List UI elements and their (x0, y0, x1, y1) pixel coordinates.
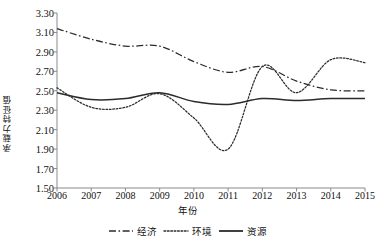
x-axis-tick-label: 2009 (150, 190, 170, 201)
legend-swatch-solid-icon (218, 226, 244, 236)
x-axis-tick-label: 2008 (115, 190, 135, 201)
legend-item-资源[interactable]: 资源 (218, 224, 267, 238)
legend-label: 环境 (192, 224, 212, 238)
y-axis-ticks (54, 13, 58, 188)
legend-swatch-dotted-icon (163, 226, 189, 236)
legend-label: 资源 (247, 224, 267, 238)
legend-item-经济[interactable]: 经济 (108, 224, 157, 238)
x-axis-tick-label: 2007 (81, 190, 101, 201)
x-axis-tick-label: 2010 (184, 190, 204, 201)
x-axis-label: 年份 (0, 203, 375, 217)
series-group (57, 29, 365, 151)
chart-legend: 经济环境资源 (0, 224, 375, 238)
legend-item-环境[interactable]: 环境 (163, 224, 212, 238)
x-axis-tick-label: 2011 (218, 190, 238, 201)
series-line-资源 (57, 93, 365, 105)
x-axis-tick-label: 2012 (252, 190, 272, 201)
x-axis-tick-label: 2014 (321, 190, 341, 201)
legend-label: 经济 (137, 224, 157, 238)
x-axis-tick-label: 2006 (47, 190, 67, 201)
chart-container: 承载力特征值 3.303.102.902.702.502.302.101.901… (0, 0, 375, 245)
legend-swatch-dash-dot-icon (108, 226, 134, 236)
x-axis-tick-label: 2013 (287, 190, 307, 201)
series-line-经济 (57, 29, 365, 91)
x-axis-tick-label: 2015 (355, 190, 375, 201)
